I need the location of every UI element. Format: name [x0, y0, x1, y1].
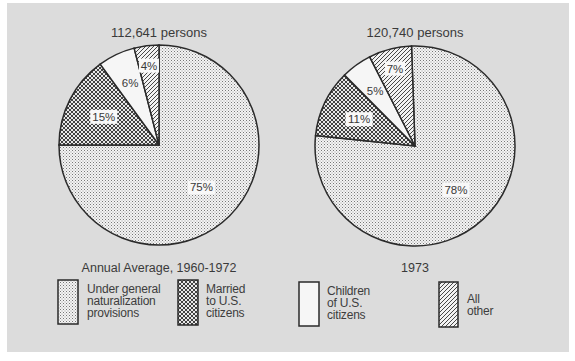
pie-slice-label: 5% — [367, 85, 384, 97]
pie-1960-1972-caption: Annual Average, 1960-1972 — [82, 261, 237, 275]
legend-label-married: Married to U.S. citizens — [206, 283, 245, 319]
pie-1960-1972: 75%15%6%4% — [59, 45, 259, 245]
legend-label-general: Under general naturalization provisions — [87, 283, 160, 319]
legend-swatch-crosshatch — [178, 280, 198, 325]
pie-1973-title: 120,740 persons — [367, 25, 464, 40]
legend-swatch-blank — [299, 282, 319, 326]
pie-slice-label: 11% — [348, 113, 370, 125]
pie-1973: 78%11%5%7% — [315, 46, 515, 246]
pie-1973-caption: 1973 — [401, 261, 429, 275]
legend-swatch-diagonal — [439, 282, 458, 327]
legend-label-children: Children of U.S. citizens — [327, 285, 370, 321]
pie-slice-label: 4% — [141, 60, 158, 72]
pie-slice-label: 78% — [444, 184, 467, 196]
pie-slice-label: 7% — [387, 63, 404, 75]
pie-slice-label: 6% — [122, 77, 139, 89]
legend-label-other: All other — [467, 293, 493, 317]
legend-swatch-dots — [58, 280, 78, 324]
pie-1960-1972-title: 112,641 persons — [111, 25, 207, 40]
pie-slice-label: 15% — [92, 111, 115, 123]
pie-slice-label: 75% — [190, 181, 213, 193]
